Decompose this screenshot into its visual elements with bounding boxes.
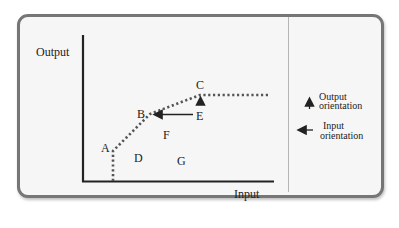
point-e-label: E [196,109,203,123]
point-b-label: B [137,107,145,121]
y-axis-label: Output [36,45,70,59]
dea-diagram: Output Input A B C D E F G Output orient… [0,0,399,228]
point-c-label: C [196,78,204,92]
legend-input-line2: orientation [320,130,363,141]
legend-output-line2: orientation [319,100,362,111]
x-axis-label: Input [234,187,260,201]
point-a-label: A [101,141,110,155]
point-g-label: G [177,154,186,168]
point-f-label: F [163,128,170,142]
point-d-label: D [134,151,143,165]
